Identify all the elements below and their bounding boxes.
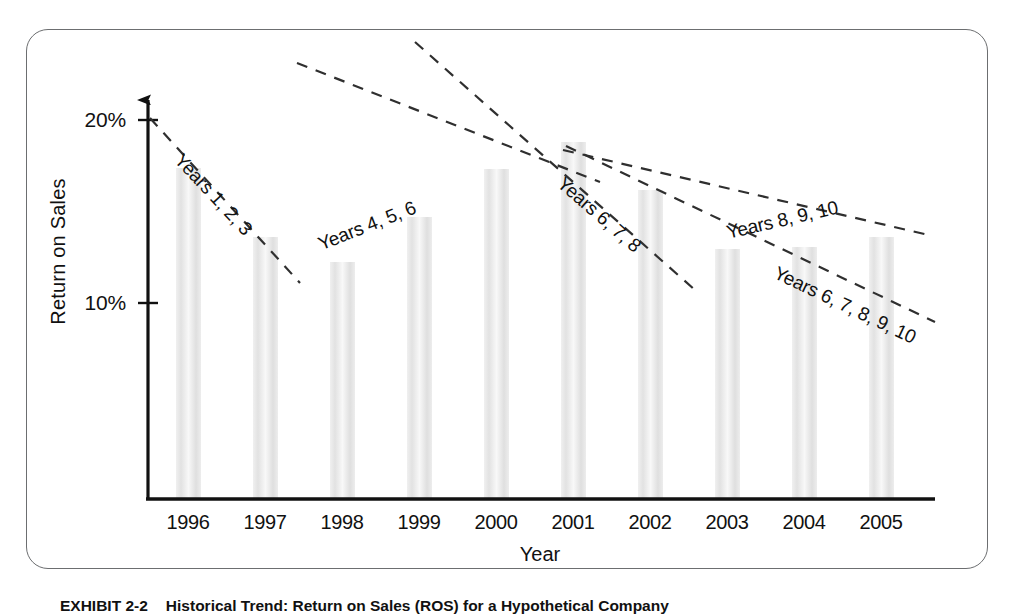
x-tick-label-1999: 1999 (380, 511, 458, 534)
y-tick-label-10: 10% (48, 291, 126, 315)
x-tick-label-2000: 2000 (457, 511, 535, 534)
bar-1998 (330, 262, 355, 499)
x-axis-title: Year (440, 543, 640, 566)
bar-2000 (484, 169, 509, 499)
x-tick-label-1996: 1996 (149, 511, 227, 534)
bar-1996 (176, 168, 201, 499)
x-tick-label-1998: 1998 (303, 511, 381, 534)
x-tick-label-2005: 2005 (842, 511, 920, 534)
figure-caption: EXHIBIT 2-2Historical Trend: Return on S… (60, 597, 1010, 615)
y-tick-label-20: 20% (48, 108, 126, 132)
x-tick-label-2001: 2001 (534, 511, 612, 534)
figure-container: Return on Sales 20% 10% 1996 1997 1998 1… (0, 0, 1014, 615)
x-tick-label-1997: 1997 (226, 511, 304, 534)
figure-caption-text: Historical Trend: Return on Sales (ROS) … (166, 597, 669, 614)
bar-2003 (715, 249, 740, 499)
bar-1997 (253, 237, 278, 499)
bar-2005 (869, 237, 894, 499)
x-tick-label-2003: 2003 (688, 511, 766, 534)
bar-series (176, 142, 894, 499)
figure-caption-exhibit: EXHIBIT 2-2 (60, 597, 148, 614)
x-tick-label-2002: 2002 (611, 511, 689, 534)
bar-1999 (407, 217, 432, 499)
bar-2002 (638, 190, 663, 499)
x-tick-label-2004: 2004 (765, 511, 843, 534)
y-axis-title: Return on Sales (47, 142, 70, 362)
